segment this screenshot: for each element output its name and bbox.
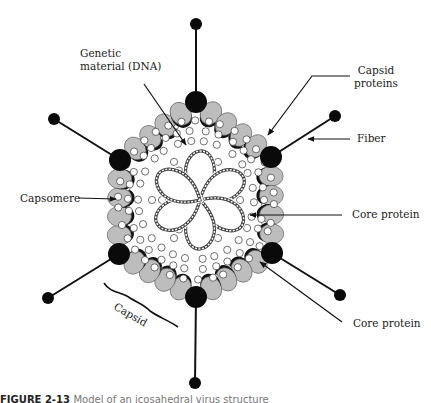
- core-protein-icon: [147, 144, 154, 151]
- core-protein-icon: [235, 236, 242, 243]
- core-protein-icon: [270, 189, 277, 196]
- core-protein-icon: [205, 118, 212, 125]
- core-protein-icon: [248, 213, 255, 220]
- label-line: Capsid: [354, 64, 398, 77]
- core-protein-icon: [135, 208, 142, 215]
- core-protein-icon: [137, 236, 144, 243]
- label-capsid-proteins: Capsid proteins: [354, 64, 398, 90]
- core-protein-icon: [195, 276, 202, 283]
- fiber-knob-icon: [42, 292, 54, 304]
- core-protein-icon: [224, 246, 231, 253]
- core-protein-icon: [240, 147, 247, 154]
- core-protein-icon: [211, 253, 218, 260]
- fiber-knob-icon: [48, 113, 60, 125]
- fiber-knob-icon: [334, 289, 346, 301]
- core-protein-icon: [215, 131, 222, 138]
- fiber-upper-left: [54, 119, 120, 160]
- core-protein-icon: [188, 137, 195, 144]
- core-protein-icon: [141, 137, 148, 144]
- label-core-protein-2: Core protein: [353, 317, 421, 330]
- core-protein-icon: [243, 136, 250, 143]
- core-protein-icon: [259, 184, 266, 191]
- core-protein-icon: [140, 152, 147, 159]
- core-protein-icon: [247, 156, 254, 163]
- core-protein-icon: [130, 168, 137, 175]
- core-protein-icon: [137, 180, 144, 187]
- core-protein-icon: [130, 224, 137, 231]
- penton-icon: [108, 243, 130, 265]
- core-protein-icon: [181, 254, 188, 261]
- core-protein-icon: [220, 271, 227, 278]
- core-protein-icon: [200, 138, 207, 145]
- penton-icon: [185, 91, 207, 113]
- core-protein-icon: [170, 158, 177, 165]
- capsomere-icon: [260, 224, 284, 244]
- label-core-protein-1: Core protein: [352, 208, 420, 221]
- core-protein-icon: [216, 121, 223, 128]
- core-protein-icon: [130, 148, 137, 155]
- fiber-lower-right: [272, 253, 340, 295]
- fiber-lower-left: [48, 254, 119, 298]
- core-protein-icon: [213, 263, 220, 270]
- core-protein-icon: [249, 184, 256, 191]
- label-line: proteins: [354, 77, 398, 90]
- label-fiber: Fiber: [357, 132, 386, 145]
- core-protein-icon: [199, 265, 206, 272]
- core-protein-icon: [151, 155, 158, 162]
- core-protein-icon: [131, 246, 138, 253]
- core-protein-icon: [145, 246, 152, 253]
- core-protein-icon: [209, 274, 216, 281]
- core-protein-icon: [234, 264, 241, 271]
- core-protein-icon: [126, 181, 133, 188]
- core-protein-icon: [181, 265, 188, 272]
- core-protein-icon: [267, 174, 274, 181]
- core-protein-icon: [270, 201, 277, 208]
- core-protein-icon: [245, 255, 252, 262]
- label-genetic-material: Genetic material (DNA): [80, 47, 161, 73]
- fiber-knob-icon: [189, 377, 201, 389]
- core-protein-icon: [134, 196, 141, 203]
- core-protein-icon: [141, 257, 148, 264]
- fiber-bottom: [195, 297, 196, 383]
- core-protein-icon: [246, 239, 253, 246]
- penton-icon: [260, 146, 282, 168]
- core-protein-icon: [142, 168, 149, 175]
- fiber-upper-right: [271, 116, 335, 157]
- core-protein-icon: [254, 225, 261, 232]
- caption-label: FIGURE 2-13: [0, 394, 70, 403]
- caption-text: Model of an icosahedral virus structure: [73, 394, 268, 403]
- core-protein-icon: [118, 221, 125, 228]
- core-protein-icon: [267, 219, 274, 226]
- penton-icon: [261, 242, 283, 264]
- figure-caption: FIGURE 2-13 Model of an icosahedral viru…: [0, 394, 269, 403]
- core-protein-icon: [250, 199, 257, 206]
- core-protein-icon: [162, 134, 169, 141]
- core-protein-icon: [174, 140, 181, 147]
- core-protein-icon: [236, 250, 243, 257]
- fiber-knob-icon: [190, 18, 202, 30]
- core-protein-icon: [231, 127, 238, 134]
- core-protein-icon: [229, 150, 236, 157]
- label-line: material (DNA): [80, 60, 161, 73]
- core-protein-icon: [229, 138, 236, 145]
- core-protein-icon: [166, 271, 173, 278]
- core-protein-icon: [213, 141, 220, 148]
- core-protein-icon: [224, 258, 231, 265]
- pointer-capsid-proteins: [268, 76, 350, 135]
- core-protein-icon: [258, 215, 265, 222]
- label-capsomere: Capsomere: [20, 192, 80, 205]
- core-protein-icon: [255, 169, 262, 176]
- core-protein-icon: [158, 244, 165, 251]
- core-protein-icon: [252, 146, 259, 153]
- core-protein-icon: [158, 256, 165, 263]
- label-line: Genetic: [80, 47, 161, 60]
- core-protein-icon: [148, 196, 155, 203]
- core-protein-icon: [202, 128, 209, 135]
- core-protein-icon: [170, 235, 177, 242]
- core-protein-icon: [186, 127, 193, 134]
- fiber-knob-icon: [329, 110, 341, 122]
- core-protein-icon: [124, 235, 131, 242]
- core-protein-icon: [264, 228, 271, 235]
- core-protein-icon: [178, 118, 185, 125]
- core-protein-icon: [260, 196, 267, 203]
